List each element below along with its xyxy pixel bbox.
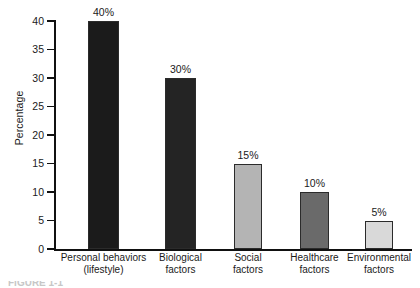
figure-caption-cropped: FIGURE 1-1 <box>0 281 420 288</box>
x-category-label-line1: Environmental <box>347 252 411 263</box>
y-tick-label-wrap: 30 <box>0 78 44 79</box>
x-category-label-line1: Social <box>234 252 261 263</box>
bar[interactable] <box>300 192 329 249</box>
bar-value-label: 40% <box>74 7 134 18</box>
x-category-label: Biologicalfactors <box>136 252 226 275</box>
bar-value-label: 15% <box>218 150 278 161</box>
bar[interactable] <box>165 78 196 249</box>
figure-container: Percentage 0510152025303540 40%30%15%10%… <box>0 0 420 288</box>
y-tick-mark <box>47 220 54 221</box>
x-category-label-line2: factors <box>136 264 226 276</box>
y-tick-label: 10 <box>32 187 44 198</box>
y-tick-mark <box>47 134 54 135</box>
y-tick-label-wrap: 0 <box>0 249 44 250</box>
bar[interactable] <box>365 221 393 250</box>
bar-value-label: 5% <box>349 207 409 218</box>
x-category-label-line1: Personal behaviors <box>61 252 147 263</box>
x-category-label: Environmentalfactors <box>331 252 420 275</box>
y-tick-mark <box>47 248 54 249</box>
y-tick-mark <box>47 77 54 78</box>
y-axis-title: Percentage <box>13 63 25 173</box>
y-tick-mark <box>47 20 54 21</box>
y-tick-label: 25 <box>32 101 44 112</box>
y-tick-mark <box>47 106 54 107</box>
y-tick-label-wrap: 20 <box>0 135 44 136</box>
y-tick-label-wrap: 10 <box>0 192 44 193</box>
bar-value-label: 10% <box>285 178 345 189</box>
bar[interactable] <box>234 164 262 250</box>
y-axis-line <box>54 20 56 250</box>
y-tick-label: 35 <box>32 44 44 55</box>
y-tick-mark <box>47 163 54 164</box>
bar-value-label: 30% <box>151 64 211 75</box>
y-tick-label: 20 <box>32 130 44 141</box>
y-tick-label-wrap: 35 <box>0 50 44 51</box>
y-tick-label: 5 <box>38 215 44 226</box>
y-tick-label: 40 <box>32 16 44 27</box>
y-tick-label-wrap: 25 <box>0 107 44 108</box>
figure-caption-text: FIGURE 1-1 <box>8 281 63 288</box>
y-tick-label: 30 <box>32 73 44 84</box>
x-axis-line <box>54 249 412 251</box>
x-category-label-line2: factors <box>331 264 420 276</box>
y-tick-mark <box>47 191 54 192</box>
y-tick-label-wrap: 5 <box>0 221 44 222</box>
y-tick-label: 15 <box>32 158 44 169</box>
y-tick-mark <box>47 49 54 50</box>
y-tick-label-wrap: 40 <box>0 21 44 22</box>
y-tick-label-wrap: 15 <box>0 164 44 165</box>
bar[interactable] <box>88 21 119 249</box>
x-category-label-line1: Biological <box>159 252 202 263</box>
